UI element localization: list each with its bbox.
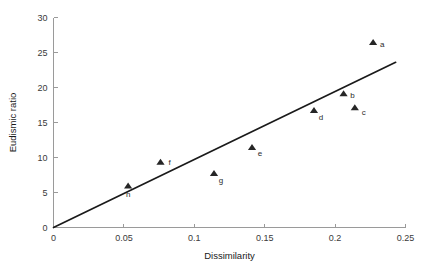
x-tick-label-4: 0.2 <box>329 233 342 243</box>
y-tick-label-0: 0 <box>42 223 47 233</box>
point-label-c: c <box>362 108 366 117</box>
data-marker-e <box>248 144 256 150</box>
point-label-d: d <box>319 113 323 122</box>
point-label-g: g <box>219 176 223 185</box>
point-label-h: h <box>126 190 130 199</box>
y-tick-label-4: 20 <box>37 83 47 93</box>
y-tick-label-1: 5 <box>42 188 47 198</box>
fit-line <box>54 62 396 227</box>
point-label-b: b <box>350 91 355 100</box>
data-marker-b <box>339 90 347 96</box>
point-label-a: a <box>380 40 385 49</box>
x-tick-label-2: 0.1 <box>188 233 201 243</box>
x-tick-label-1: 0.05 <box>115 233 133 243</box>
y-tick-label-5: 25 <box>37 48 47 58</box>
y-axis-title: Eudismic ratio <box>7 93 18 153</box>
y-tick-label-3: 15 <box>37 118 47 128</box>
chart-figure: 00.050.10.150.20.25051015202530 abcdefgh… <box>0 0 431 271</box>
data-marker-f <box>156 159 164 165</box>
data-marker-c <box>351 104 359 110</box>
data-marker-d <box>310 107 318 113</box>
x-axis-title: Dissimilarity <box>204 250 255 261</box>
point-label-e: e <box>258 149 263 158</box>
x-tick-label-5: 0.25 <box>397 233 415 243</box>
x-tick-label-0: 0 <box>51 233 56 243</box>
data-marker-h <box>124 183 132 189</box>
data-marker-g <box>210 170 218 176</box>
data-marker-a <box>369 39 377 45</box>
regression-line <box>54 62 396 227</box>
x-tick-label-3: 0.15 <box>256 233 274 243</box>
y-tick-label-2: 10 <box>37 153 47 163</box>
scatter-plot: 00.050.10.150.20.25051015202530 abcdefgh… <box>0 0 431 271</box>
point-label-f: f <box>168 158 171 167</box>
y-tick-label-6: 30 <box>37 13 47 23</box>
